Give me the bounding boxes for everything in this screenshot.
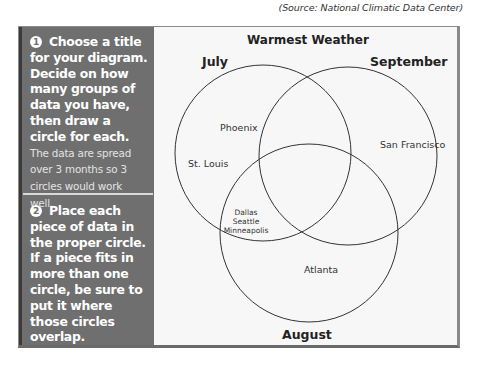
city-dallas: Dallas — [214, 208, 278, 217]
city-atlanta: Atlanta — [304, 264, 338, 275]
set-label-august: August — [282, 327, 332, 342]
city-st-louis: St. Louis — [188, 158, 228, 169]
step-1: 1 Choose a title for your diagram. Decid… — [22, 27, 154, 193]
step-1-bold-text: Choose a title for your diagram. Decide … — [30, 34, 148, 144]
city-san-francisco: San Francisco — [380, 139, 445, 150]
step-number-badge: 1 — [30, 36, 42, 48]
step-number-badge: 2 — [30, 205, 42, 217]
venn-diagram-figure: 1 Choose a title for your diagram. Decid… — [18, 26, 460, 348]
instructions-panel: 1 Choose a title for your diagram. Decid… — [19, 27, 154, 345]
city-phoenix: Phoenix — [220, 122, 258, 133]
venn-circles — [154, 27, 458, 346]
step-2-bold-text: Place each piece of data in the proper c… — [30, 203, 146, 344]
diagram-title: Warmest Weather — [247, 33, 369, 47]
source-note: (Source: National Climatic Data Center) — [279, 2, 463, 13]
set-label-september: September — [370, 54, 448, 69]
july-august-overlap-list: Dallas Seattle Minneapolis — [214, 208, 278, 235]
step-2: 2 Place each piece of data in the proper… — [22, 195, 154, 349]
city-minneapolis: Minneapolis — [214, 226, 278, 235]
september-circle — [259, 67, 437, 245]
city-seattle: Seattle — [214, 217, 278, 226]
venn-area: Warmest Weather July September August Ph… — [154, 27, 457, 345]
set-label-july: July — [202, 54, 228, 69]
